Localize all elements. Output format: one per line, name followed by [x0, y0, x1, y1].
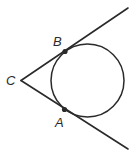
label-c: C: [6, 73, 16, 88]
point-a-dot: [62, 107, 67, 112]
tangent-line-ca: [21, 81, 128, 150]
label-b: B: [53, 34, 62, 49]
tangent-lines-diagram: C B A: [0, 0, 133, 154]
point-b-dot: [62, 49, 67, 54]
label-a: A: [54, 115, 64, 130]
tangent-line-cb: [21, 8, 128, 81]
diagram-canvas: C B A: [0, 0, 133, 154]
